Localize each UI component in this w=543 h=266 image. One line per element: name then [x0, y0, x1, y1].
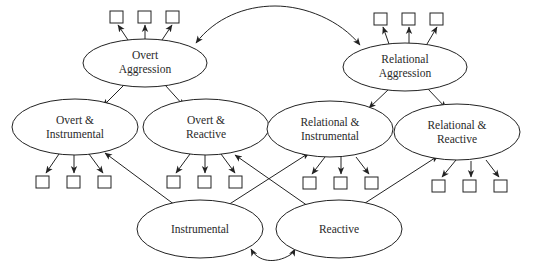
indicator-box	[167, 176, 180, 188]
node-instrumental: Instrumental	[137, 200, 263, 258]
node-label: Aggression	[119, 63, 172, 76]
indicator-box	[67, 176, 80, 188]
indicator-box	[334, 177, 347, 189]
node-label: Reactive	[186, 128, 226, 140]
indicator-box	[229, 176, 242, 188]
indicator-box	[494, 180, 507, 192]
indicator-box	[98, 176, 111, 188]
node-label: Reactive	[319, 223, 359, 235]
covariance-arrow-aggression	[196, 6, 360, 45]
relational-reactive-indicators	[432, 160, 507, 192]
overt-instrumental-indicators	[36, 154, 111, 188]
indicator-box	[198, 176, 211, 188]
node-label: Instrumental	[46, 128, 104, 140]
indicator-box	[36, 176, 49, 188]
relational-instrumental-indicators	[303, 157, 378, 189]
node-relational-aggression: Relational Aggression	[343, 43, 467, 91]
node-overt-reactive: Overt & Reactive	[143, 99, 269, 155]
indicator-box	[365, 177, 378, 189]
node-overt-instrumental: Overt & Instrumental	[12, 99, 138, 155]
indicator-box	[303, 177, 316, 189]
relational-aggression-indicators	[374, 13, 443, 44]
node-label: Relational	[381, 53, 428, 65]
indicator-box	[110, 11, 123, 23]
node-label: Aggression	[379, 67, 432, 80]
node-label: Relational &	[300, 116, 359, 128]
node-relational-reactive: Relational & Reactive	[394, 104, 520, 160]
node-label: Relational &	[427, 119, 486, 131]
indicator-box	[166, 11, 179, 23]
indicator-box	[138, 11, 151, 23]
indicator-box	[402, 13, 415, 25]
sem-diagram: Overt Aggression Relational Aggression O…	[0, 0, 543, 266]
node-label: Reactive	[437, 133, 477, 145]
node-label: Overt &	[56, 114, 94, 126]
overt-aggression-indicators	[110, 11, 179, 40]
indicator-box	[430, 13, 443, 25]
node-overt-aggression: Overt Aggression	[83, 39, 207, 87]
node-label: Overt	[132, 49, 159, 61]
node-reactive: Reactive	[276, 200, 402, 258]
overt-reactive-indicators	[167, 154, 242, 188]
indicator-box	[463, 180, 476, 192]
indicator-box	[374, 13, 387, 25]
indicator-box	[432, 180, 445, 192]
covariance-arrow-function	[251, 249, 295, 261]
node-relational-instrumental: Relational & Instrumental	[267, 101, 393, 157]
node-label: Instrumental	[301, 130, 359, 142]
node-label: Overt &	[187, 114, 225, 126]
node-label: Instrumental	[171, 223, 229, 235]
